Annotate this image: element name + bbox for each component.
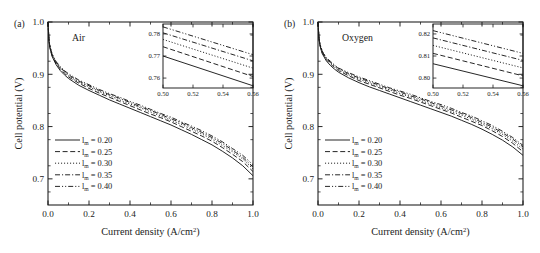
main-axes-frame [48, 22, 253, 205]
inset-y-tick-label: 0.78 [148, 30, 160, 37]
inset-x-tick-label: 0.52 [187, 90, 199, 97]
legend-label-1: lm = 0.25 [352, 148, 382, 158]
legend-label-0: lm = 0.20 [82, 136, 112, 146]
legend-label-3: lm = 0.35 [82, 171, 112, 181]
inset-y-tick-label: 0.77 [148, 52, 160, 59]
legend-label-2: lm = 0.30 [352, 159, 382, 169]
y-tick-label: 1.0 [303, 17, 315, 27]
plot-a: (a)0.00.20.40.60.81.00.70.80.91.0Airlm =… [0, 0, 270, 253]
inset-x-tick-label: 0.56 [247, 90, 259, 97]
x-tick-label: 0.6 [435, 209, 447, 219]
legend-label-2: lm = 0.30 [82, 159, 112, 169]
y-tick-label: 0.7 [33, 174, 45, 184]
x-tick-label: 0.8 [206, 209, 218, 219]
figure-root: (a)0.00.20.40.60.81.00.70.80.91.0Airlm =… [0, 0, 540, 253]
x-tick-label: 1.0 [517, 209, 529, 219]
inset-curve-2 [163, 39, 253, 68]
y-tick-label: 0.8 [33, 122, 45, 132]
curve-0 [48, 22, 253, 176]
inset-frame [163, 24, 253, 88]
x-tick-label: 0.8 [476, 209, 488, 219]
y-tick-label: 0.9 [33, 70, 45, 80]
y-axis-label: Cell potential (V) [283, 78, 295, 150]
inset-x-tick-label: 0.54 [487, 90, 499, 97]
inset-x-tick-label: 0.52 [457, 90, 469, 97]
plot-b: (b)0.00.20.40.60.81.00.70.80.91.0Oxygenl… [270, 0, 540, 253]
inset-curve-4 [433, 31, 523, 54]
x-tick-label: 0.0 [42, 209, 54, 219]
y-tick-label: 0.9 [303, 70, 315, 80]
legend-label-4: lm = 0.40 [82, 182, 112, 192]
inset-curve-0 [163, 56, 253, 86]
x-tick-label: 0.4 [124, 209, 136, 219]
inset-curve-1 [163, 47, 253, 77]
inset-curve-3 [433, 38, 523, 61]
legend-label-3: lm = 0.35 [352, 171, 382, 181]
panel-label: (a) [14, 18, 25, 30]
inset-y-tick-label: 0.76 [148, 74, 160, 81]
y-tick-label: 1.0 [33, 17, 45, 27]
inset-y-tick-label: 0.82 [418, 30, 430, 37]
legend-label-1: lm = 0.25 [82, 148, 112, 158]
legend-label-0: lm = 0.20 [352, 136, 382, 146]
y-tick-label: 0.8 [303, 122, 315, 132]
main-axes-frame [318, 22, 523, 205]
x-axis-label: Current density (A/cm2) [371, 226, 469, 238]
gas-label: Air [72, 32, 86, 43]
panel-label: (b) [284, 18, 295, 30]
inset-curve-4 [163, 27, 253, 55]
y-tick-label: 0.7 [303, 174, 315, 184]
inset-curve-0 [433, 64, 523, 86]
panel-a: (a)0.00.20.40.60.81.00.70.80.91.0Airlm =… [0, 0, 270, 253]
x-axis-label: Current density (A/cm2) [101, 226, 199, 238]
y-axis-label: Cell potential (V) [13, 78, 25, 150]
gas-label: Oxygen [342, 32, 373, 43]
x-tick-label: 0.6 [165, 209, 177, 219]
x-tick-label: 0.0 [312, 209, 324, 219]
x-tick-label: 0.2 [83, 209, 95, 219]
inset-x-tick-label: 0.50 [427, 90, 439, 97]
inset-y-tick-label: 0.81 [418, 52, 430, 59]
inset-x-tick-label: 0.50 [157, 90, 169, 97]
inset-x-tick-label: 0.56 [517, 90, 529, 97]
x-tick-label: 0.4 [394, 209, 406, 219]
x-tick-label: 1.0 [247, 209, 259, 219]
x-tick-label: 0.2 [353, 209, 365, 219]
inset-x-tick-label: 0.54 [217, 90, 229, 97]
inset-y-tick-label: 0.80 [418, 74, 430, 81]
legend-label-4: lm = 0.40 [352, 182, 382, 192]
inset-curve-3 [163, 33, 253, 61]
panel-b: (b)0.00.20.40.60.81.00.70.80.91.0Oxygenl… [270, 0, 540, 253]
